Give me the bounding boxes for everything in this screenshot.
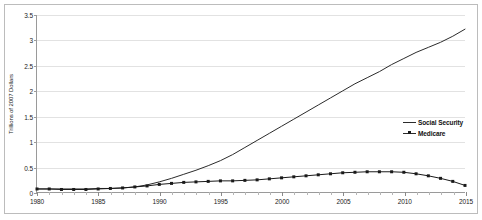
series-marker: [219, 179, 222, 182]
series-marker: [60, 188, 63, 191]
x-tick-mark-minor: [307, 192, 308, 195]
x-tick-mark-minor: [331, 192, 332, 195]
x-tick-label: 2000: [275, 198, 289, 205]
series-marker: [341, 171, 344, 174]
x-tick-label: 1985: [91, 198, 105, 205]
x-tick-mark-minor: [454, 192, 455, 195]
series-marker: [170, 182, 173, 185]
y-tick-label: 3.5: [24, 12, 33, 19]
x-tick-label: 2005: [336, 198, 350, 205]
legend-label: Social Security: [418, 119, 463, 126]
x-tick-mark-minor: [49, 192, 50, 195]
x-tick-mark-minor: [62, 192, 63, 195]
x-tick-mark-minor: [356, 192, 357, 195]
x-tick-mark-minor: [172, 192, 173, 195]
x-tick-mark-minor: [270, 192, 271, 195]
series-marker: [390, 170, 393, 173]
x-tick-label: 2015: [459, 198, 473, 205]
x-tick-mark-major: [405, 192, 406, 196]
series-marker: [256, 178, 259, 181]
y-tick-label: 0: [29, 190, 33, 197]
x-tick-mark-major: [160, 192, 161, 196]
series-marker: [280, 176, 283, 179]
x-tick-mark-minor: [429, 192, 430, 195]
y-tick-label: 1: [29, 139, 33, 146]
x-tick-mark-minor: [319, 192, 320, 195]
x-tick-mark-minor: [123, 192, 124, 195]
x-tick-mark-minor: [380, 192, 381, 195]
series-marker: [268, 177, 271, 180]
series-line: [37, 172, 465, 190]
x-tick-label: 1990: [153, 198, 167, 205]
y-tick-label: 0.5: [24, 164, 33, 171]
series-marker: [378, 170, 381, 173]
series-marker: [146, 184, 149, 187]
series-marker: [353, 171, 356, 174]
series-marker: [415, 172, 418, 175]
legend-item-social-security: Social Security: [403, 117, 463, 128]
series-marker: [109, 187, 112, 190]
x-tick-mark-major: [37, 192, 38, 196]
series-marker: [97, 187, 100, 190]
series-marker: [464, 184, 467, 187]
series-marker: [243, 179, 246, 182]
chart-figure: Trillions of 2007 Dollars 00.511.522.533…: [0, 0, 482, 220]
x-tick-mark-minor: [184, 192, 185, 195]
x-tick-mark-minor: [86, 192, 87, 195]
x-tick-label: 1980: [30, 198, 44, 205]
x-tick-mark-minor: [258, 192, 259, 195]
x-tick-mark-minor: [233, 192, 234, 195]
x-tick-label: 2010: [398, 198, 412, 205]
series-marker: [317, 173, 320, 176]
series-marker: [121, 186, 124, 189]
plot-area: 00.511.522.533.5 19801985199019952000200…: [36, 15, 465, 193]
series-marker: [305, 174, 308, 177]
series-marker: [36, 187, 39, 190]
x-tick-mark-minor: [74, 192, 75, 195]
y-axis-title: Trillions of 2007 Dollars: [8, 74, 14, 134]
x-tick-mark-minor: [417, 192, 418, 195]
y-tick-label: 3: [29, 37, 33, 44]
x-tick-label: 1995: [214, 198, 228, 205]
x-tick-mark-minor: [294, 192, 295, 195]
series-marker: [194, 180, 197, 183]
series-line: [37, 29, 465, 189]
x-tick-mark-major: [221, 192, 222, 196]
legend-line-icon: [403, 118, 416, 127]
x-tick-mark-major: [282, 192, 283, 196]
chart-legend: Social Security Medicare: [403, 117, 463, 139]
x-tick-mark-minor: [209, 192, 210, 195]
series-marker: [439, 177, 442, 180]
x-tick-mark-minor: [196, 192, 197, 195]
series-marker: [366, 170, 369, 173]
x-tick-mark-minor: [392, 192, 393, 195]
series-layer: [37, 15, 465, 192]
x-tick-mark-minor: [441, 192, 442, 195]
x-tick-mark-major: [343, 192, 344, 196]
series-marker: [72, 188, 75, 191]
chart-frame: Trillions of 2007 Dollars 00.511.522.533…: [4, 4, 478, 214]
x-tick-mark-major: [466, 192, 467, 196]
series-marker: [231, 179, 234, 182]
x-tick-mark-minor: [245, 192, 246, 195]
x-tick-mark-minor: [135, 192, 136, 195]
y-tick-label: 2: [29, 88, 33, 95]
series-marker: [158, 183, 161, 186]
legend-item-medicare: Medicare: [403, 128, 463, 139]
series-marker: [207, 180, 210, 183]
x-tick-mark-major: [98, 192, 99, 196]
x-tick-mark-minor: [111, 192, 112, 195]
legend-label: Medicare: [418, 130, 445, 137]
series-marker: [133, 185, 136, 188]
series-marker: [182, 181, 185, 184]
y-tick-label: 2.5: [24, 62, 33, 69]
y-tick-label: 1.5: [24, 113, 33, 120]
series-marker: [84, 188, 87, 191]
x-tick-mark-minor: [368, 192, 369, 195]
series-marker: [427, 174, 430, 177]
x-tick-mark-minor: [147, 192, 148, 195]
series-marker: [451, 180, 454, 183]
legend-marker-line-icon: [403, 129, 416, 138]
series-marker: [402, 171, 405, 174]
series-marker: [292, 175, 295, 178]
